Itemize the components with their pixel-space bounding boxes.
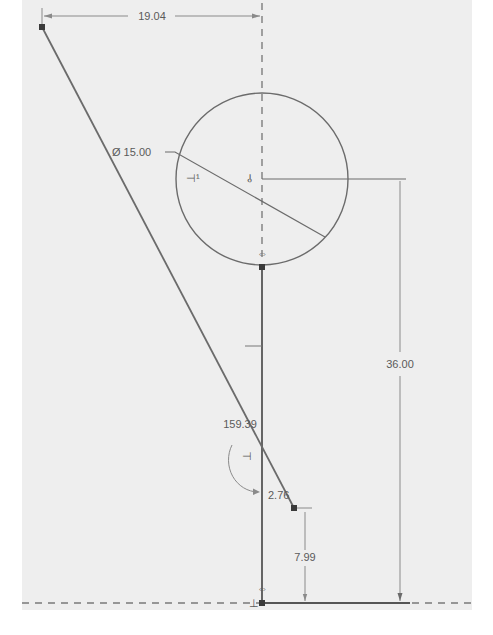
vertical-constraint-icon[interactable]: ⇔ <box>257 247 268 259</box>
dimension-label: 7.99 <box>294 551 315 563</box>
tangent-constraint-icon[interactable]: ⊣¹ <box>186 172 200 184</box>
perpendicular-constraint-icon[interactable]: ⊣ <box>242 450 252 462</box>
dimension-7-99[interactable]: 7.99 <box>294 508 315 601</box>
fix-constraint-icon[interactable]: ⊥ <box>249 597 259 609</box>
dimension-36-00[interactable]: 36.00 <box>386 181 414 601</box>
diagonal-line-geometry[interactable] <box>42 27 294 508</box>
endpoint-diagonal-bottom[interactable] <box>291 505 297 511</box>
sketch-drawing[interactable]: 19.04 Ø 15.00 36.00 7.99 159.39 2.76 ⊣¹ … <box>0 0 493 635</box>
dimension-label: 36.00 <box>386 358 414 370</box>
endpoint-origin[interactable] <box>259 600 265 606</box>
coincident-constraint-icon[interactable]: ⫰ <box>247 172 252 184</box>
dimension-label: 159.39 <box>223 418 257 430</box>
dimension-19-04[interactable]: 19.04 <box>42 8 260 26</box>
dimension-label: 19.04 <box>138 10 166 22</box>
endpoint-top-left[interactable] <box>39 24 45 30</box>
dimension-label: Ø 15.00 <box>112 146 151 158</box>
horizontal-constraint-icon[interactable]: ⇔ <box>257 582 268 594</box>
dimension-2-76[interactable]: 2.76 <box>268 489 289 501</box>
endpoint-circle-bottom[interactable] <box>259 264 265 270</box>
